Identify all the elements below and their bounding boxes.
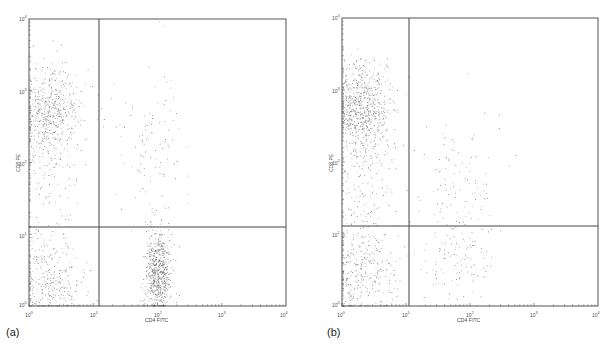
- y-tick-1: 101: [19, 231, 27, 239]
- y-tick-0: 100: [332, 300, 340, 308]
- panel-label-b: (b): [327, 326, 340, 338]
- data-points: [343, 48, 517, 307]
- x-axis-label: CD4 FITC: [457, 317, 480, 323]
- x-tick-1: 101: [90, 310, 98, 318]
- y-tick-3: 103: [19, 87, 27, 95]
- x-tick-3: 103: [218, 310, 226, 318]
- plot-panel-b: 100 101 102 103 104 104 103 102 101 100 …: [307, 0, 614, 350]
- x-tick-0: 100: [25, 310, 33, 318]
- x-tick-1: 101: [402, 310, 410, 318]
- y-tick-0: 100: [19, 300, 27, 308]
- data-points: [30, 22, 189, 306]
- x-tick-4: 104: [280, 310, 288, 318]
- y-tick-4: 104: [19, 14, 27, 22]
- y-axis-label: CD8 PE: [328, 154, 334, 172]
- x-axis-label: CD4 FITC: [145, 317, 168, 323]
- plot-panel-a: 100 101 102 103 104 104 103 102 101 100 …: [0, 0, 307, 350]
- x-tick-0: 100: [337, 310, 345, 318]
- panel-label-a: (a): [6, 326, 19, 338]
- plot-frame: [342, 18, 598, 306]
- scatter-plot-b: [307, 0, 614, 350]
- x-tick-3: 103: [530, 310, 538, 318]
- scatter-plot-a: [0, 0, 307, 350]
- plot-frame: [29, 19, 286, 306]
- y-axis-label: CD8 PE: [15, 154, 21, 172]
- y-tick-4: 104: [332, 13, 340, 21]
- y-tick-3: 103: [332, 86, 340, 94]
- y-tick-1: 101: [332, 230, 340, 238]
- x-tick-4: 104: [592, 310, 600, 318]
